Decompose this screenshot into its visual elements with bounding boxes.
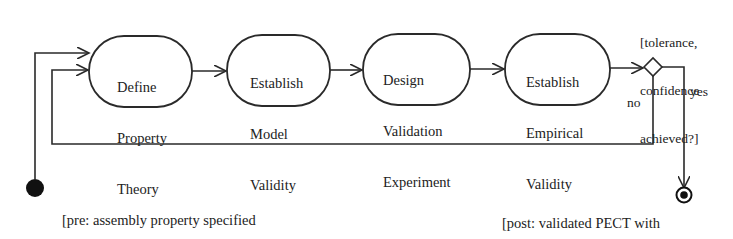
no-branch-label: no [627,94,641,111]
final-node-inner [680,191,688,199]
postcondition-note: [post: validated PECT with statistical c… [502,181,662,239]
initial-node [26,179,44,197]
precondition-note: [pre: assembly property specified requir… [62,178,256,239]
start-flow [35,53,89,180]
yes-branch-label: yes [690,83,708,100]
activity-design-label: Design Validation Experiment [383,38,451,208]
activity-model-label: Establish Model Validity [250,41,303,211]
